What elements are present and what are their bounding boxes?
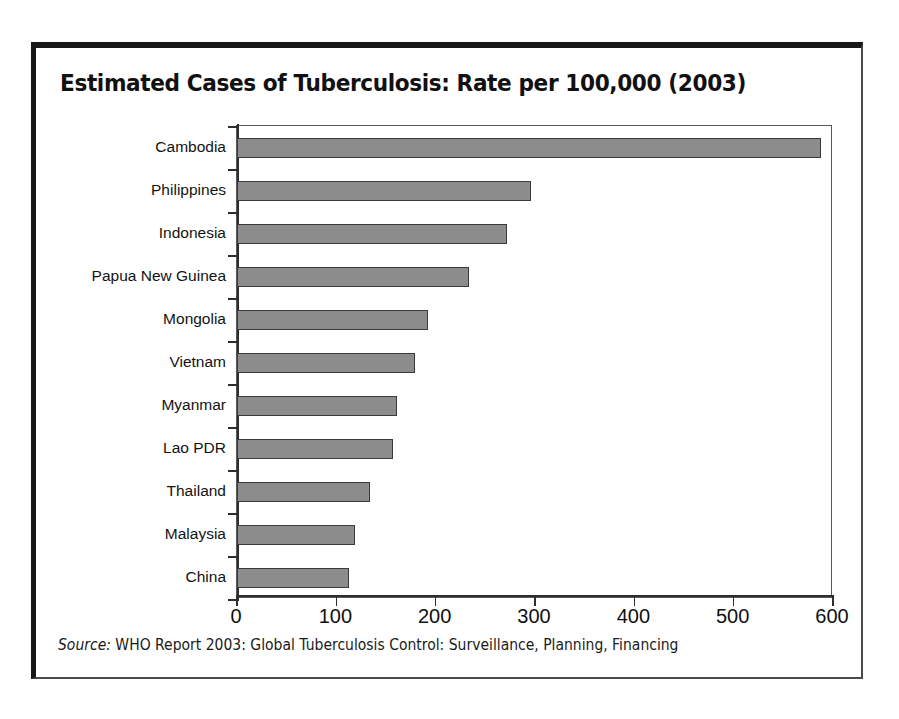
bar-band bbox=[237, 126, 831, 169]
y-axis-tick bbox=[228, 513, 237, 515]
category-axis-labels: CambodiaPhilippinesIndonesiaPapua New Gu… bbox=[36, 125, 226, 598]
bar-band bbox=[237, 298, 831, 341]
category-label: Cambodia bbox=[155, 138, 226, 156]
x-axis-tick-label: 200 bbox=[418, 605, 451, 628]
figure-inner: Estimated Cases of Tuberculosis: Rate pe… bbox=[36, 48, 861, 677]
y-axis-tick bbox=[228, 255, 237, 257]
y-axis-tick bbox=[228, 384, 237, 386]
category-label: Indonesia bbox=[159, 224, 226, 242]
bar bbox=[237, 482, 370, 502]
x-axis-tick-label: 0 bbox=[230, 605, 241, 628]
figure-frame: Estimated Cases of Tuberculosis: Rate pe… bbox=[31, 42, 863, 679]
y-axis-tick bbox=[228, 169, 237, 171]
category-label: Lao PDR bbox=[163, 439, 226, 457]
category-label: China bbox=[186, 568, 227, 586]
bar-band bbox=[237, 470, 831, 513]
bar bbox=[237, 310, 428, 330]
source-text: WHO Report 2003: Global Tuberculosis Con… bbox=[111, 636, 679, 654]
bar bbox=[237, 396, 397, 416]
x-axis-tick-label: 400 bbox=[617, 605, 650, 628]
y-axis-tick bbox=[228, 341, 237, 343]
category-label: Myanmar bbox=[161, 396, 226, 414]
y-axis-tick bbox=[228, 427, 237, 429]
bar bbox=[237, 267, 469, 287]
bar bbox=[237, 525, 355, 545]
category-label: Vietnam bbox=[169, 353, 226, 371]
bar-band bbox=[237, 169, 831, 212]
y-axis-tick bbox=[228, 212, 237, 214]
x-axis-tick-label: 500 bbox=[716, 605, 749, 628]
y-axis-tick bbox=[228, 556, 237, 558]
category-label: Thailand bbox=[167, 482, 226, 500]
bar-band bbox=[237, 384, 831, 427]
source-note: Source: WHO Report 2003: Global Tubercul… bbox=[58, 636, 678, 654]
bar-band bbox=[237, 255, 831, 298]
plot-area bbox=[236, 125, 832, 598]
bar bbox=[237, 138, 821, 158]
page-title: Estimated Cases of Tuberculosis: Rate pe… bbox=[60, 70, 746, 96]
bar bbox=[237, 353, 415, 373]
bar bbox=[237, 224, 507, 244]
x-axis-tick-label: 600 bbox=[815, 605, 848, 628]
y-axis-tick bbox=[228, 298, 237, 300]
y-axis-tick bbox=[228, 599, 237, 601]
y-axis-tick bbox=[228, 126, 237, 128]
y-axis-tick bbox=[228, 470, 237, 472]
category-label: Philippines bbox=[151, 181, 226, 199]
bar bbox=[237, 439, 393, 459]
x-axis-tick-label: 100 bbox=[319, 605, 352, 628]
bar bbox=[237, 568, 349, 588]
bar-band bbox=[237, 556, 831, 599]
bar-band bbox=[237, 513, 831, 556]
category-label: Mongolia bbox=[163, 310, 226, 328]
source-label: Source: bbox=[58, 636, 111, 654]
category-label: Malaysia bbox=[165, 525, 226, 543]
bar-band bbox=[237, 212, 831, 255]
x-axis-tick-label: 300 bbox=[517, 605, 550, 628]
bar-band bbox=[237, 427, 831, 470]
category-label: Papua New Guinea bbox=[92, 267, 226, 285]
bar-band bbox=[237, 341, 831, 384]
bar bbox=[237, 181, 531, 201]
